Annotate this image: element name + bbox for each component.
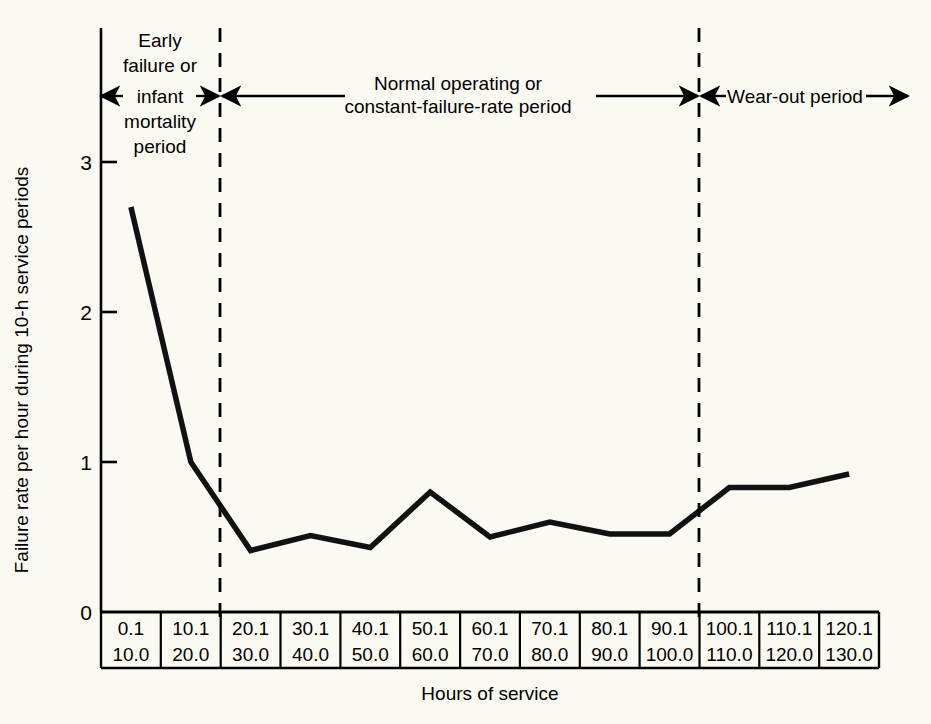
x-axis-bin-start: 70.1 [531,618,568,639]
early-failure-line-5: period [134,136,187,157]
wear-out-label: Wear-out period [727,86,863,107]
x-axis-bin-start: 0.1 [118,618,144,639]
x-axis-bin-start: 20.1 [232,618,269,639]
x-axis-bin-start: 60.1 [472,618,509,639]
early-failure-line-1: Early [138,30,182,51]
y-tick-label-1: 1 [80,451,92,474]
x-axis-bin-end: 20.0 [172,644,209,665]
x-axis-bin-end: 30.0 [232,644,269,665]
y-tick-label-0: 0 [80,601,92,624]
early-failure-line-2: failure or [123,55,198,76]
x-axis-bin-start: 80.1 [591,618,628,639]
x-axis-bin-end: 130.0 [825,644,873,665]
early-failure-line-3: infant [137,86,184,107]
x-axis-bin-start: 10.1 [172,618,209,639]
x-axis-bin-end: 90.0 [591,644,628,665]
x-axis-bin-end: 50.0 [352,644,389,665]
x-axis-bin-start: 110.1 [766,618,812,639]
x-axis-bin-start: 100.1 [706,618,754,639]
x-axis-bin-end: 80.0 [531,644,568,665]
x-axis-bin-end: 60.0 [412,644,449,665]
bathtub-curve-chart: 3 2 1 0 Failure rate per hour during 10-… [0,0,931,724]
x-axis-bin-start: 30.1 [292,618,329,639]
x-axis-bin-end: 110.0 [706,644,752,665]
x-axis-bin-end: 70.0 [472,644,509,665]
x-axis-bin-start: 120.1 [825,618,873,639]
y-tick-label-3: 3 [80,151,92,174]
failure-rate-chart-figure: 3 2 1 0 Failure rate per hour during 10-… [0,0,931,724]
y-tick-0: 0 [80,601,92,624]
y-axis-title: Failure rate per hour during 10-h servic… [11,167,32,574]
y-tick-label-2: 2 [80,301,92,324]
x-axis-bin-end: 120.0 [765,644,813,665]
x-axis-bin-end: 40.0 [292,644,329,665]
x-axis-bin-start: 90.1 [651,618,688,639]
normal-operating-line-1: Normal operating or [374,73,543,94]
early-failure-line-4: mortality [124,111,196,132]
normal-operating-line-2: constant-failure-rate period [344,96,571,117]
x-axis-bin-end: 100.0 [646,644,694,665]
x-axis-bin-start: 50.1 [412,618,449,639]
x-axis-bin-end: 10.0 [112,644,149,665]
x-axis-bin-start: 40.1 [352,618,389,639]
x-axis-title: Hours of service [421,683,558,704]
